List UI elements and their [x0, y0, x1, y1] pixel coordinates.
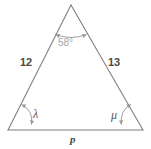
apex-angle-label: 58°: [58, 38, 73, 48]
base-length-label: p: [70, 134, 76, 145]
mu-angle-label: μ: [111, 109, 117, 121]
triangle-figure: 12 13 58° λ μ p: [0, 0, 151, 149]
side-length-label-right: 13: [108, 57, 120, 68]
lambda-angle-arc: [22, 105, 32, 125]
triangle-right-edge: [71, 5, 143, 130]
triangle-diagram-svg: [0, 0, 151, 149]
side-length-label-left: 12: [20, 57, 32, 68]
triangle-left-edge: [8, 5, 71, 130]
lambda-angle-label: λ: [33, 108, 38, 120]
